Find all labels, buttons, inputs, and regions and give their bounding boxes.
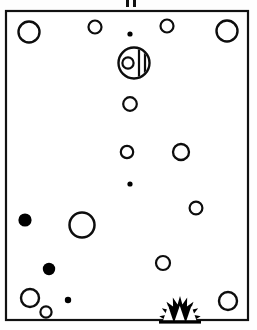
figure-canvas: Scatter of circular markers within a rec… — [0, 0, 257, 330]
dot-left-large — [18, 213, 31, 226]
dot-top-center — [127, 31, 132, 36]
composite-disc-emblem — [119, 48, 150, 79]
figure-illustration — [0, 0, 257, 330]
top-tick-mark-1 — [126, 0, 129, 7]
sunburst-base-bar — [159, 320, 201, 323]
top-tick-mark-2 — [133, 0, 136, 7]
dot-bottom-left — [43, 263, 55, 275]
dot-bottom-center-small — [65, 297, 71, 303]
dot-mid-center — [127, 181, 132, 186]
top-tick-marks — [126, 0, 136, 7]
